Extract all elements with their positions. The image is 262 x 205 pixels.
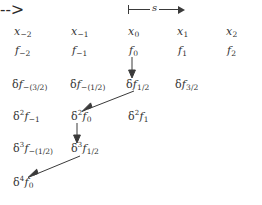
cell-delta-f-minus-3-2: δf−(3/2) — [12, 79, 47, 90]
arrow-delta-f-half-to-delta2-f0 — [78, 90, 138, 114]
cell-x-1: x1 — [177, 26, 188, 37]
subscript: 2 — [231, 49, 236, 58]
cell-f-1: f1 — [178, 45, 187, 56]
difference-table-figure: --> s x−2 x−1 x0 x1 x2 f−2 f−1 f0 f1 f2 … — [0, 0, 262, 205]
subscript: 0 — [29, 181, 34, 190]
subscript: 2 — [232, 30, 237, 39]
delta-operator: δ — [12, 78, 19, 91]
subscript: −2 — [19, 49, 30, 58]
subscript: −1 — [29, 115, 40, 124]
measure-arrowhead-icon — [178, 6, 185, 14]
subscript: 3/2 — [186, 83, 198, 92]
cell-delta-f-3-2: δf3/2 — [175, 79, 198, 90]
delta-operator: δ — [175, 78, 182, 91]
subscript: 0 — [134, 30, 139, 39]
superscript: 2 — [20, 109, 25, 117]
delta-operator: δ — [13, 110, 20, 123]
subscript: 0 — [87, 115, 92, 124]
cell-x-minus-1: x−1 — [71, 26, 88, 37]
subscript: 1/2 — [87, 147, 99, 156]
spacing-measure-arrow: s — [128, 4, 184, 16]
cell-x-2: x2 — [226, 26, 237, 37]
cell-f-minus-1: f−1 — [72, 45, 87, 56]
arrow-f0-to-delta-f-half — [127, 57, 143, 79]
cell-f-0: f0 — [129, 45, 138, 56]
subscript: −2 — [20, 30, 31, 39]
subscript: −(3/2) — [23, 83, 47, 92]
cell-f-minus-2: f−2 — [15, 45, 30, 56]
delta-operator: δ — [13, 176, 20, 189]
subscript: 1 — [144, 115, 149, 124]
subscript: −1 — [76, 49, 87, 58]
delta-operator: δ — [13, 142, 20, 155]
superscript: 3 — [20, 141, 25, 149]
cell-f-2: f2 — [227, 45, 236, 56]
subscript: 1 — [182, 49, 187, 58]
delta-operator: δ — [71, 110, 78, 123]
cell-delta2-f-minus-1: δ2f−1 — [13, 111, 40, 122]
cell-x-0: x0 — [128, 26, 139, 37]
cell-delta-f-1-2: δf1/2 — [126, 79, 149, 90]
spacing-label-s: s — [150, 2, 159, 13]
cell-x-minus-2: x−2 — [14, 26, 31, 37]
arrow-delta2-f0-to-delta3-f-half — [71, 123, 87, 144]
delta-operator: δ — [70, 78, 77, 91]
cell-delta3-f-minus-1-2: δ3f−(1/2) — [13, 143, 53, 154]
cell-delta3-f-1-2: δ3f1/2 — [71, 143, 99, 154]
arrow-delta3-f-half-to-delta4-f0 — [22, 155, 84, 180]
cell-delta-f-minus-1-2: δf−(1/2) — [70, 79, 105, 90]
subscript: 1/2 — [137, 83, 149, 92]
subscript: 1 — [183, 30, 188, 39]
subscript: −1 — [77, 30, 88, 39]
